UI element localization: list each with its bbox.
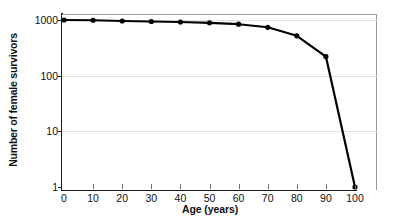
data-point-marker	[61, 17, 66, 22]
data-point-marker	[91, 18, 96, 23]
data-series-line	[62, 14, 377, 190]
y-tick-mark	[58, 20, 62, 21]
data-point-marker	[149, 19, 154, 24]
x-tick-mark	[180, 184, 181, 189]
data-point-marker	[236, 22, 241, 27]
y-tick-label: 100	[24, 70, 58, 82]
data-point-marker	[323, 54, 328, 59]
data-point-marker	[265, 25, 270, 30]
series-polyline	[64, 20, 355, 187]
y-tick-label: 1000	[24, 14, 58, 26]
x-axis-title: Age (years)	[62, 203, 358, 215]
x-tick-mark	[297, 184, 298, 189]
x-tick-mark	[122, 184, 123, 189]
x-tick-mark	[355, 184, 356, 189]
data-point-marker	[294, 33, 299, 38]
y-tick-label: 1	[24, 181, 58, 193]
y-axis-title: Number of female survivors	[4, 5, 22, 195]
survivorship-chart: Number of female survivors 1000100101 01…	[0, 0, 411, 224]
x-tick-mark	[239, 184, 240, 189]
x-tick-mark	[210, 184, 211, 189]
data-point-marker	[207, 20, 212, 25]
y-tick-label: 10	[24, 125, 58, 137]
x-tick-mark	[326, 184, 327, 189]
y-tick-mark	[58, 187, 62, 188]
x-tick-mark	[268, 184, 269, 189]
plot-area	[62, 14, 377, 190]
x-tick-mark	[93, 184, 94, 189]
x-tick-mark	[151, 184, 152, 189]
y-tick-mark	[58, 131, 62, 132]
y-tick-mark	[58, 76, 62, 77]
data-point-marker	[120, 18, 125, 23]
data-point-marker	[178, 19, 183, 24]
